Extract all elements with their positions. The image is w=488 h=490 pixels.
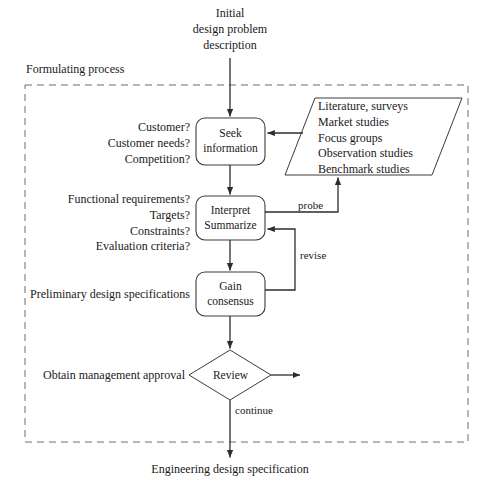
node-label-seek-information: Seek information — [196, 126, 265, 156]
edge-label-probe: probe — [298, 199, 323, 211]
annotation-preliminary-specs: Preliminary design specifications — [30, 287, 190, 303]
edge-revise — [265, 229, 295, 290]
flowchart-canvas: Initial design problem description Formu… — [0, 0, 488, 490]
annotation-seek-questions: Customer? Customer needs? Competition? — [40, 120, 190, 167]
node-label-gain-consensus: Gain consensus — [196, 279, 265, 309]
edge-label-revise: revise — [300, 249, 326, 261]
engineering-design-specification: Engineering design specification — [110, 462, 350, 478]
node-label-review: Review — [196, 368, 265, 383]
initial-problem-description: Initial design problem description — [150, 6, 310, 53]
formulating-process-label: Formulating process — [26, 62, 124, 78]
node-label-information-sources: Literature, surveys Market studies Focus… — [318, 99, 468, 178]
annotation-interpret-questions: Functional requirements? Targets? Constr… — [30, 192, 190, 255]
edge-label-continue: continue — [235, 404, 273, 416]
annotation-management-approval: Obtain management approval — [30, 368, 185, 384]
node-label-interpret-summarize: Interpret Summarize — [196, 203, 265, 233]
